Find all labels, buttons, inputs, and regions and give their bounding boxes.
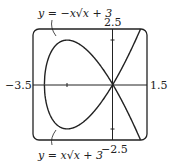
x-max-label: 1.5	[150, 80, 168, 91]
label-leader-bottom	[52, 130, 57, 145]
label-leader-top	[52, 20, 57, 36]
y-max-label: 2.5	[104, 17, 122, 28]
x-min-label: −3.5	[5, 80, 32, 91]
curve-top	[44, 40, 140, 140]
curve-top-label: y = −x√x + 3	[38, 8, 112, 19]
y-min-label: −2.5	[101, 144, 128, 155]
curve-bottom-label: y = x√x + 3	[38, 150, 103, 161]
curve-bottom	[44, 29, 140, 129]
